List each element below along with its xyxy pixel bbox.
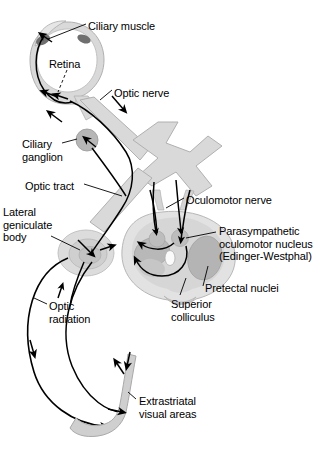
optic-nerve-chiasm-tract <box>80 97 222 232</box>
label-ciliary-muscle: Ciliary muscle <box>88 20 155 33</box>
leader-ciliary-ganglion <box>62 139 77 143</box>
label-retina: Retina <box>49 58 80 71</box>
label-oculomotor-nerve: Oculomotor nerve <box>186 194 272 207</box>
label-optic-nerve: Optic nerve <box>114 87 169 100</box>
leader-optic-nerve <box>100 90 112 100</box>
label-optic-radiation: Optic radiation <box>49 300 90 325</box>
label-extrastriatal: Extrastriatal visual areas <box>139 395 197 420</box>
visual-cortex-band <box>70 354 136 437</box>
label-parasympathetic: Parasympathetic oculomotor nucleus (Edin… <box>219 225 313 263</box>
visual-pathway-figure: Ciliary muscle Retina Optic nerve Ciliar… <box>0 0 324 455</box>
leader-optic-tract <box>84 184 122 196</box>
label-superior-colliculus: Superior colliculus <box>171 298 215 323</box>
label-lateral-geniculate: Lateral geniculate body <box>3 206 52 244</box>
leader-optic-radiation <box>34 298 47 304</box>
label-optic-tract: Optic tract <box>25 180 74 193</box>
label-ciliary-ganglion: Ciliary ganglion <box>22 138 63 163</box>
optic-radiation-band <box>28 258 126 426</box>
label-pretectal-nuclei: Pretectal nuclei <box>205 282 279 295</box>
